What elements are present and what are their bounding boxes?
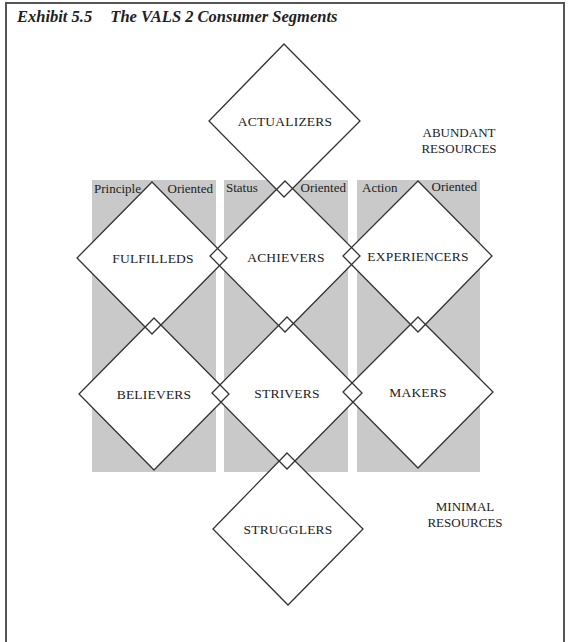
abundant-line-1: ABUNDANT bbox=[404, 125, 514, 141]
column-label-oriented-2: Oriented bbox=[301, 180, 347, 195]
minimal-line-2: RESOURCES bbox=[410, 515, 520, 531]
segment-fulfilleds: FULFILLEDS bbox=[112, 251, 194, 266]
segment-strugglers: STRUGGLERS bbox=[243, 522, 332, 537]
segment-experiencers: EXPERIENCERS bbox=[367, 249, 468, 264]
column-label-principle: Principle bbox=[94, 181, 141, 196]
column-label-action: Action bbox=[362, 180, 398, 195]
segment-achievers: ACHIEVERS bbox=[247, 250, 325, 265]
minimal-line-1: MINIMAL bbox=[410, 499, 520, 515]
minimal-resources-label: MINIMAL RESOURCES bbox=[410, 499, 520, 531]
segment-strivers: STRIVERS bbox=[254, 386, 319, 401]
abundant-resources-label: ABUNDANT RESOURCES bbox=[404, 125, 514, 157]
abundant-line-2: RESOURCES bbox=[404, 141, 514, 157]
column-label-oriented-3: Oriented bbox=[432, 179, 478, 194]
column-label-oriented-1: Oriented bbox=[168, 181, 214, 196]
segment-actualizers: ACTUALIZERS bbox=[238, 114, 332, 129]
segment-believers: BELIEVERS bbox=[117, 387, 192, 402]
column-label-status: Status bbox=[226, 180, 258, 195]
segment-makers: MAKERS bbox=[389, 385, 446, 400]
